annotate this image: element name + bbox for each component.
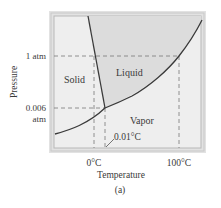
phase-diagram: Solid Liquid Vapor 0.01°C 1 atm 0.006 at… bbox=[0, 0, 221, 208]
vapor-label: Vapor bbox=[130, 115, 155, 126]
solid-label: Solid bbox=[64, 74, 85, 85]
y-tick-0006: 0.006 bbox=[26, 103, 47, 113]
y-tick-atm: atm bbox=[33, 114, 47, 124]
x-tick-0c: 0°C bbox=[87, 158, 102, 168]
x-tick-100c: 100°C bbox=[167, 158, 191, 168]
y-tick-1atm: 1 atm bbox=[26, 51, 46, 61]
figure-caption: (a) bbox=[115, 185, 126, 196]
liquid-label: Liquid bbox=[116, 67, 143, 78]
x-axis-title: Temperature bbox=[97, 170, 145, 180]
y-axis-title: Pressure bbox=[9, 66, 19, 98]
triple-point-label: 0.01°C bbox=[114, 132, 141, 142]
